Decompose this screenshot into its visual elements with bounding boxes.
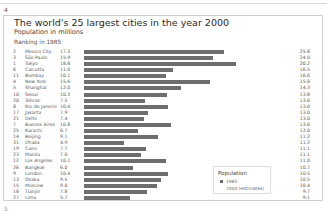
- bar-1985: [84, 196, 130, 200]
- bar-1985: [84, 80, 210, 84]
- bar-1985: [84, 56, 213, 60]
- legend: Population 1985 2000 (estimated): [213, 166, 271, 194]
- bar-1985: [84, 74, 166, 78]
- table-row: 19Cairo7.711.1: [0, 146, 327, 152]
- bar-1985: [84, 135, 158, 139]
- bar-1985: [84, 178, 161, 182]
- value-2000: 11.1: [296, 146, 310, 152]
- rank-1985: 19: [13, 146, 21, 152]
- bar-1985: [84, 153, 141, 157]
- value-2000: 13.0: [296, 98, 310, 104]
- chart-title: The world's 25 largest cities in the yea…: [14, 17, 229, 28]
- page-number-top: 4: [4, 6, 8, 13]
- value-2000: 9.1: [296, 195, 310, 201]
- bar-1985: [84, 172, 168, 176]
- bar-1985: [84, 123, 171, 127]
- top-rule: [0, 3, 327, 4]
- bar-1985: [84, 129, 138, 133]
- legend-label-2000: 2000 (estimated): [226, 186, 264, 191]
- table-row: 27Lima5.79.1: [0, 195, 327, 201]
- value-1985: 7.5: [60, 98, 74, 104]
- bar-1985: [84, 141, 124, 145]
- bar-1985: [84, 111, 148, 115]
- bar-1985: [84, 68, 173, 72]
- bar-1985: [84, 99, 145, 103]
- chart-subtitle: Population in millions: [14, 28, 83, 36]
- value-1985: 5.7: [60, 195, 74, 201]
- city-name: Lima: [25, 195, 36, 201]
- rank-1985: 20: [13, 98, 21, 104]
- table-row: 20Tehran7.513.0: [0, 98, 327, 104]
- bar-1985: [84, 117, 144, 121]
- legend-swatch-1985: [220, 180, 223, 183]
- legend-title: Population: [218, 170, 247, 176]
- page-number-bottom: 5: [4, 205, 8, 212]
- bar-1985: [84, 184, 157, 188]
- rank-1985: 27: [13, 195, 21, 201]
- ranking-label: Ranking in 1985: [14, 39, 61, 45]
- bar-1985: [84, 93, 167, 97]
- value-1985: 7.7: [60, 146, 74, 152]
- bar-1985: [84, 50, 224, 54]
- bar-1985: [84, 166, 133, 170]
- city-name: Tehran: [25, 98, 40, 104]
- bar-1985: [84, 190, 147, 194]
- bar-1985: [84, 62, 236, 66]
- city-name: Cairo: [25, 146, 37, 152]
- bar-1985: [84, 147, 146, 151]
- bar-1985: [84, 86, 181, 90]
- bar-1985: [84, 159, 166, 163]
- bar-1985: [84, 105, 168, 109]
- legend-label-1985: 1985: [226, 179, 237, 184]
